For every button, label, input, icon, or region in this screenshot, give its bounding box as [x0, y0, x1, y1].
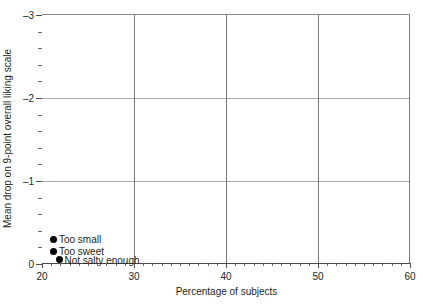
- y-axis-tick: [36, 98, 42, 99]
- x-axis-minor-tick: [281, 263, 282, 266]
- data-point[interactable]: [50, 248, 57, 255]
- x-axis-minor-tick: [51, 263, 52, 266]
- x-axis-minor-tick: [336, 263, 337, 266]
- x-axis-tick: [42, 263, 43, 268]
- x-axis-minor-tick: [152, 263, 153, 266]
- x-axis-minor-tick: [208, 263, 209, 266]
- data-point-label: Too small: [59, 234, 101, 245]
- x-axis-tick: [226, 263, 227, 268]
- data-point[interactable]: [56, 256, 63, 263]
- gridline-vertical: [226, 15, 227, 263]
- x-axis-title: Percentage of subjects: [42, 286, 411, 297]
- x-axis-tick-label: 20: [36, 271, 47, 282]
- x-axis-minor-tick: [180, 263, 181, 266]
- y-axis-minor-tick: [38, 231, 42, 232]
- x-axis-minor-tick: [355, 263, 356, 266]
- x-axis-minor-tick: [309, 263, 310, 266]
- x-axis-title-text: Percentage of subjects: [176, 286, 278, 297]
- x-axis-minor-tick: [401, 263, 402, 266]
- x-axis-tick-label: 40: [220, 271, 231, 282]
- y-axis-minor-tick: [38, 198, 42, 199]
- x-axis-minor-tick: [235, 263, 236, 266]
- plot-area: 0–1–2–32030405060Too smallToo sweetNot s…: [42, 14, 410, 263]
- x-axis-minor-tick: [217, 263, 218, 266]
- x-axis-minor-tick: [346, 263, 347, 266]
- y-axis-minor-tick: [38, 247, 42, 248]
- y-axis-minor-tick: [38, 214, 42, 215]
- y-axis-minor-tick: [38, 148, 42, 149]
- x-axis-tick: [410, 263, 411, 268]
- y-axis-minor-tick: [38, 32, 42, 33]
- x-axis-minor-tick: [60, 263, 61, 266]
- x-axis-minor-tick: [392, 263, 393, 266]
- gridline-vertical: [134, 15, 135, 263]
- y-axis-minor-tick: [38, 164, 42, 165]
- y-axis-tick: [36, 15, 42, 16]
- x-axis-minor-tick: [290, 263, 291, 266]
- y-axis-tick-label: –1: [23, 176, 34, 187]
- y-axis-tick-label: –2: [23, 93, 34, 104]
- y-axis-minor-tick: [38, 81, 42, 82]
- x-axis-tick: [318, 263, 319, 268]
- x-axis-minor-tick: [373, 263, 374, 266]
- x-axis-minor-tick: [364, 263, 365, 266]
- x-axis-tick-label: 50: [312, 271, 323, 282]
- y-axis-title: Mean drop on 9-point overall liking scal…: [0, 14, 14, 263]
- y-axis-minor-tick: [38, 48, 42, 49]
- x-axis-minor-tick: [382, 263, 383, 266]
- data-point-label: Not salty enough: [64, 254, 139, 265]
- x-axis-minor-tick: [244, 263, 245, 266]
- y-axis-tick: [36, 181, 42, 182]
- x-axis-tick-label: 60: [404, 271, 415, 282]
- chart-screenshot: Mean drop on 9-point overall liking scal…: [0, 0, 423, 307]
- y-axis-minor-tick: [38, 131, 42, 132]
- x-axis-minor-tick: [254, 263, 255, 266]
- x-axis-minor-tick: [300, 263, 301, 266]
- x-axis-minor-tick: [162, 263, 163, 266]
- y-axis-tick-label: –3: [23, 10, 34, 21]
- x-axis-minor-tick: [189, 263, 190, 266]
- y-axis-minor-tick: [38, 115, 42, 116]
- x-axis-minor-tick: [171, 263, 172, 266]
- gridline-vertical: [409, 15, 410, 263]
- x-axis-minor-tick: [272, 263, 273, 266]
- y-axis-tick-label: 0: [28, 259, 34, 270]
- x-axis-tick-label: 30: [128, 271, 139, 282]
- y-axis-title-text: Mean drop on 9-point overall liking scal…: [2, 49, 13, 228]
- x-axis-minor-tick: [143, 263, 144, 266]
- x-axis-minor-tick: [327, 263, 328, 266]
- gridline-vertical: [318, 15, 319, 263]
- x-axis-minor-tick: [263, 263, 264, 266]
- data-point[interactable]: [50, 236, 57, 243]
- x-axis-minor-tick: [198, 263, 199, 266]
- y-axis-minor-tick: [38, 65, 42, 66]
